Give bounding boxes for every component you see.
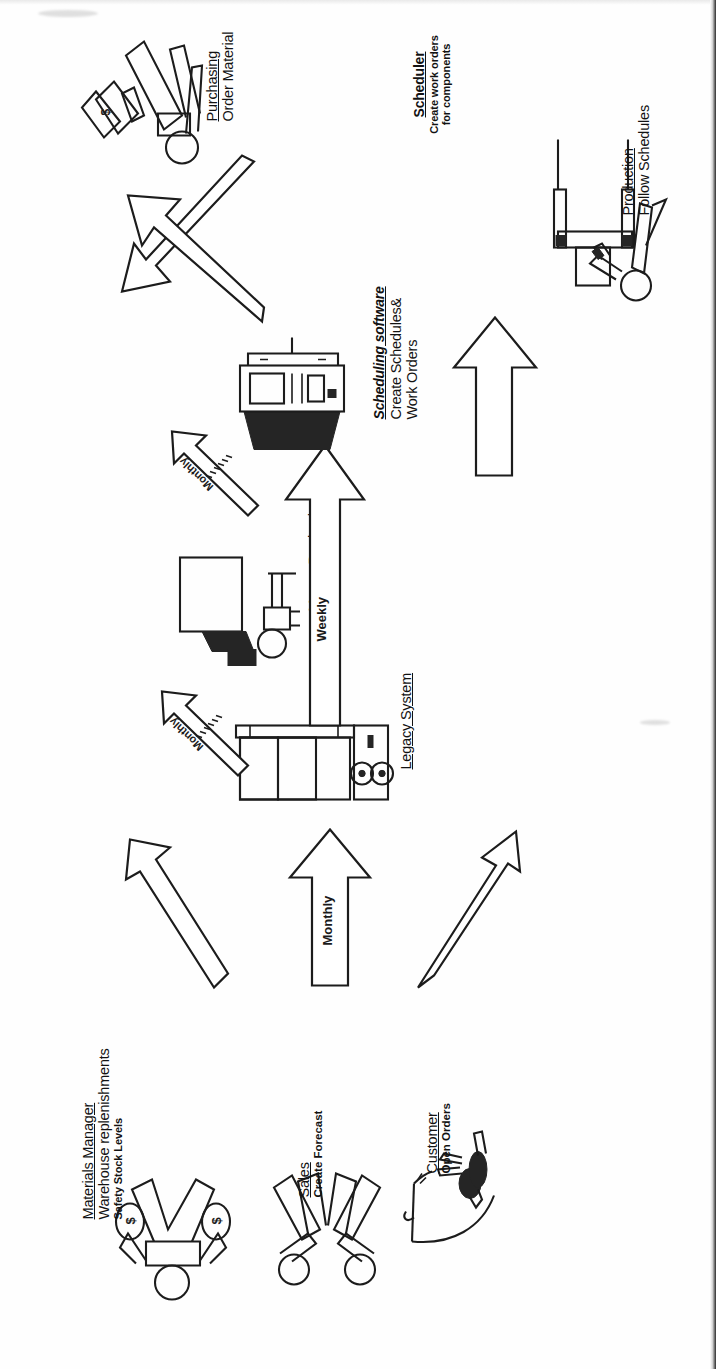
customer-caption: Customer Open Orders — [424, 993, 453, 1173]
legacy-system-title: Legacy System — [398, 569, 414, 769]
arrow-legacy-to-mps: Monthly — [146, 681, 252, 791]
scheduling-software-line3: Work Orders — [404, 189, 420, 419]
sales-caption: Sales Create Forecast — [296, 1017, 325, 1197]
scheduling-software-title: Scheduling software — [372, 189, 388, 419]
customer-icon — [400, 1129, 520, 1269]
production-caption: Production Follow Schedules — [620, 15, 652, 215]
arrow-software-to-production — [450, 309, 540, 479]
arrow-customer-to-legacy — [404, 817, 520, 997]
svg-text:$: $ — [123, 1216, 138, 1224]
purchasing-icon: $ — [74, 29, 202, 177]
arrow-label-monthly-sales: Monthly — [320, 895, 335, 945]
materials-manager-icon: $ $ — [108, 1147, 238, 1307]
svg-text:$: $ — [99, 108, 113, 115]
arrow-legacy-to-software-weekly: Weekly — [282, 439, 368, 729]
purchasing-caption: Purchasing Order Material — [204, 0, 236, 121]
svg-text:$: $ — [209, 1216, 224, 1224]
diagram-canvas: $ $ Materials Manager Warehouse replenis… — [0, 0, 716, 1369]
scheduling-software-caption: Scheduling software Create Schedules& Wo… — [372, 189, 420, 419]
customer-title: Customer — [424, 993, 440, 1173]
purchasing-title: Purchasing — [204, 0, 220, 121]
arrow-materials-to-legacy — [118, 821, 228, 991]
arrow-software-to-scheduler — [114, 151, 266, 331]
scheduler-caption: Scheduler Create work orders for compone… — [412, 0, 452, 199]
production-line2: Follow Schedules — [636, 15, 652, 215]
materials-manager-line2: Warehouse replenishments — [96, 969, 112, 1219]
sales-line2: Create Forecast — [312, 1017, 325, 1197]
materials-manager-line3: Safety Stock Levels — [112, 969, 124, 1219]
production-title: Production — [620, 15, 636, 215]
purchasing-line2: Order Material — [220, 0, 236, 121]
scheduler-line2: Create work orders — [428, 0, 440, 199]
materials-manager-caption: Materials Manager Warehouse replenishmen… — [80, 969, 125, 1219]
scheduling-software-icon — [234, 327, 360, 455]
scheduler-line3: for components — [440, 0, 452, 199]
scheduling-software-line2: Create Schedules& — [388, 189, 404, 419]
scheduler-title: Scheduler — [412, 0, 428, 199]
arrow-label-weekly: Weekly — [314, 596, 329, 641]
arrow-sales-to-legacy: Monthly — [286, 821, 376, 989]
sales-icon — [268, 1151, 388, 1291]
scanned-page: $ $ Materials Manager Warehouse replenis… — [0, 0, 716, 1369]
materials-manager-title: Materials Manager — [80, 969, 96, 1219]
sales-title: Sales — [296, 1017, 312, 1197]
legacy-system-caption: Legacy System — [398, 569, 414, 769]
customer-line2: Open Orders — [440, 993, 453, 1173]
